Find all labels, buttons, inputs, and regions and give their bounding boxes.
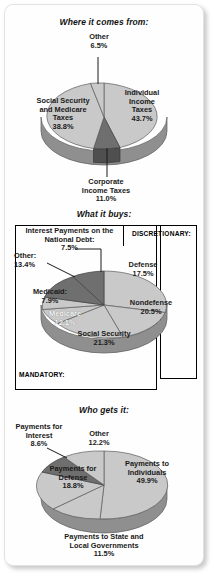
panel-who-gets-it: Who gets it: Payments for Interest 8.6% … [5, 395, 203, 565]
label-payments-for-interest: Payments for Interest 8.6% [8, 423, 70, 449]
label-medicaid: Medicaid: 7.9% [27, 288, 73, 305]
label-payments-for-defense: Payments for Defense 18.8% [42, 465, 104, 491]
label-social-security-medicare-taxes: Social Security and Medicare Taxes 38.8% [31, 97, 95, 131]
panel-where-it-comes-from: Where it comes from: Other 6.5% Individu… [5, 5, 203, 205]
label-other-1: Other 6.5% [69, 33, 129, 50]
label-payments-state-local: Payments to State and Local Governments … [39, 533, 169, 559]
label-corporate-income-taxes: Corporate Income Taxes 11.0% [63, 178, 149, 204]
label-social-security-2: Social Security 21.3% [71, 330, 137, 347]
label-other-3: Other 12.2% [75, 430, 123, 447]
pie-2-leader-other [47, 263, 75, 277]
label-nondefense: Nondefense 20.5% [123, 299, 179, 316]
label-payments-to-individuals: Payments to Individuals 49.9% [116, 460, 178, 486]
pie-3-leader-interest [47, 448, 67, 458]
label-other-2: Other: 13.4% [14, 252, 50, 269]
label-medicare: Medicare 12.1% [41, 310, 89, 327]
label-defense: Defense 17.5% [118, 261, 168, 278]
label-interest-payments: Interest Payments on the National Debt: … [17, 227, 122, 253]
panel-what-it-buys: What it buys: DISCRETIONARY: MANDATORY: [5, 205, 203, 395]
label-individual-income-taxes: Individual Income Taxes 43.7% [113, 89, 171, 123]
infographic-card: Where it comes from: Other 6.5% Individu… [4, 4, 204, 566]
